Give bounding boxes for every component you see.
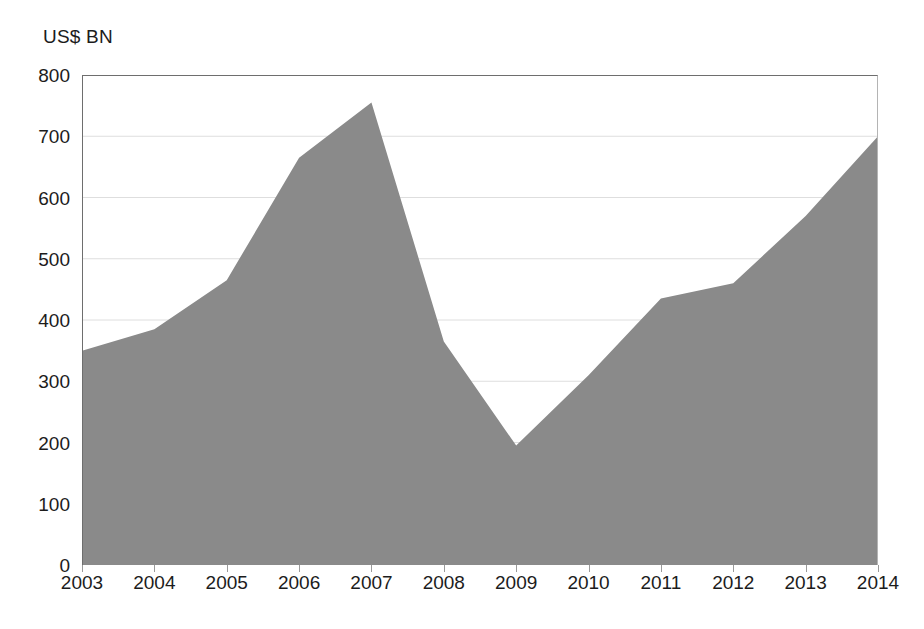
x-axis-tick-label: 2004 (114, 572, 194, 594)
x-axis-tick-label: 2012 (693, 572, 773, 594)
x-axis-tick-mark (661, 565, 662, 572)
y-axis-tick-label: 700 (8, 127, 70, 146)
x-axis-tick-label: 2005 (187, 572, 267, 594)
x-axis-tick-mark (371, 565, 372, 572)
x-axis-tick-label: 2011 (621, 572, 701, 594)
plot-area (82, 75, 878, 565)
x-axis-tick-mark (444, 565, 445, 572)
y-axis-tick-labels: 8007006005004003002001000 (8, 75, 70, 565)
x-axis-tick-label: 2008 (404, 572, 484, 594)
x-axis-tick-mark (299, 565, 300, 572)
y-axis-tick-label: 800 (8, 66, 70, 85)
y-axis-tick-label: 100 (8, 495, 70, 514)
area-series-path (82, 103, 878, 565)
y-axis-tick-label: 500 (8, 250, 70, 269)
x-axis-tick-label: 2007 (331, 572, 411, 594)
y-axis-tick-label: 400 (8, 311, 70, 330)
x-axis-tick-label: 2009 (476, 572, 556, 594)
x-axis-tick-label: 2003 (42, 572, 122, 594)
y-axis-tick-label: 600 (8, 189, 70, 208)
y-axis-tick-label: 200 (8, 434, 70, 453)
x-axis-tick-mark (806, 565, 807, 572)
y-axis-unit-caption: US$ BN (43, 26, 113, 48)
x-axis-tick-label: 2013 (766, 572, 846, 594)
y-axis-tick-label: 300 (8, 372, 70, 391)
x-axis-tick-mark (589, 565, 590, 572)
area-series-svg (82, 75, 878, 565)
x-axis-tick-label: 2006 (259, 572, 339, 594)
x-axis-tick-label: 2014 (838, 572, 918, 594)
x-axis-tick-label: 2010 (549, 572, 629, 594)
x-axis-tick-mark (154, 565, 155, 572)
x-axis-tick-mark (227, 565, 228, 572)
x-axis-tick-mark (82, 565, 83, 572)
x-axis-tick-mark (516, 565, 517, 572)
x-axis-tick-mark (878, 565, 879, 572)
x-axis-tick-mark (733, 565, 734, 572)
area-chart: US$ BN 8007006005004003002001000 2003200… (0, 0, 924, 629)
x-axis-tick-labels: 2003200420052006200720082009201020112012… (82, 572, 878, 602)
